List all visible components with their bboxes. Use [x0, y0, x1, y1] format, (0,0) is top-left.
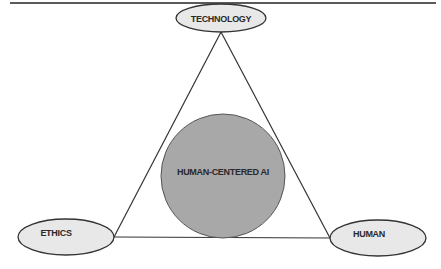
center-node: HUMAN-CENTERED AI — [161, 114, 285, 238]
technology-label: TECHNOLOGY — [191, 14, 252, 24]
human-label: HUMAN — [353, 229, 385, 239]
diagram-canvas: HUMAN-CENTERED AI TECHNOLOGY ETHICS HUMA… — [0, 0, 441, 269]
ethics-label: ETHICS — [40, 228, 72, 238]
node-technology: TECHNOLOGY — [176, 4, 266, 32]
center-label: HUMAN-CENTERED AI — [177, 167, 269, 177]
node-human: HUMAN — [330, 220, 426, 256]
node-ethics: ETHICS — [18, 219, 114, 255]
